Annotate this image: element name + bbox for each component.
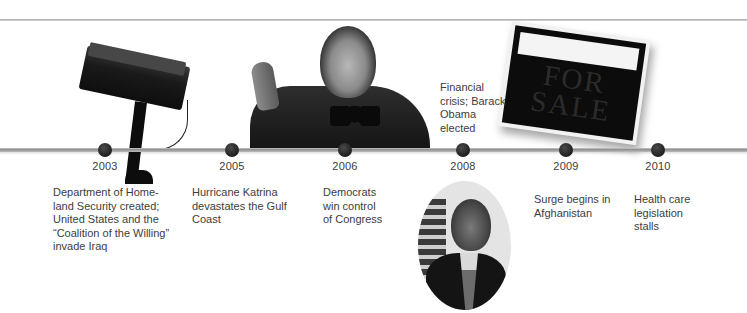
event-description-2009: Surge begins in Afghanistan xyxy=(534,193,610,220)
timeline-dot-2010 xyxy=(651,143,665,157)
top-rule xyxy=(0,19,747,21)
timeline-dot-2008 xyxy=(456,143,470,157)
year-label-2008: 2008 xyxy=(450,160,475,172)
speaker-hand xyxy=(250,60,280,111)
portrait-head xyxy=(451,199,491,251)
microphones-icon xyxy=(330,106,380,126)
timeline-dot-2005 xyxy=(225,143,239,157)
sign-board: FOR SALE xyxy=(502,25,646,140)
event-description-2006: Democrats win control of Congress xyxy=(323,186,382,227)
timeline-dot-2009 xyxy=(559,143,573,157)
year-label-2005: 2005 xyxy=(219,160,244,172)
camera-base xyxy=(125,170,153,184)
year-label-2003: 2003 xyxy=(92,160,117,172)
speaker-at-podium-image xyxy=(250,22,430,148)
timeline-axis xyxy=(0,148,747,152)
event-description-2003: Department of Home- land Security create… xyxy=(53,186,169,254)
obama-portrait-image xyxy=(418,181,511,310)
year-label-2010: 2010 xyxy=(645,160,670,172)
sign-text: FOR SALE xyxy=(509,58,635,128)
timeline-dot-2006 xyxy=(338,143,352,157)
event-description-2010: Health care legislation stalls xyxy=(634,193,690,234)
timeline-dot-2003 xyxy=(98,143,112,157)
for-sale-sign-image: FOR SALE xyxy=(497,21,650,145)
year-label-2009: 2009 xyxy=(553,160,578,172)
speaker-head xyxy=(320,26,376,98)
year-label-2006: 2006 xyxy=(332,160,357,172)
event-description-2005: Hurricane Katrina devastates the Gulf Co… xyxy=(192,186,287,227)
event-description-2008: Financial crisis; Barack Obama elected xyxy=(440,81,505,135)
